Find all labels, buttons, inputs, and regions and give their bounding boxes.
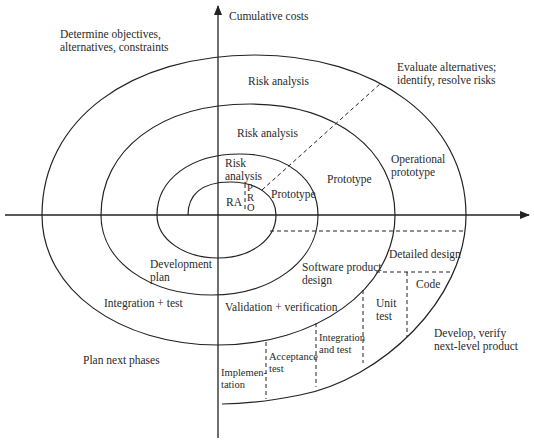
- development-plan: Development plan: [150, 258, 212, 284]
- validation-verification: Validation + verification: [225, 301, 338, 314]
- spiral: [42, 55, 466, 404]
- quadrant-develop-line1: Develop, verify: [434, 327, 518, 340]
- software-product-design-line1: Software product: [302, 261, 382, 274]
- risk-analysis-inner: Risk analysis: [225, 157, 262, 183]
- software-product-design: Software product design: [302, 261, 382, 287]
- code-label: Code: [416, 278, 440, 291]
- risk-analysis-middle: Risk analysis: [237, 127, 298, 140]
- integration-and-test-line1: Integration: [319, 332, 365, 344]
- operational-prototype: Operational prototype: [391, 153, 445, 179]
- integration-and-test-line2: and test: [319, 344, 365, 356]
- prototype-middle: Prototype: [327, 173, 372, 186]
- prototype-inner: Prototype: [271, 188, 316, 201]
- quadrant-label-objectives: Determine objectives, alternatives, cons…: [60, 28, 169, 54]
- software-product-design-line2: design: [302, 274, 382, 287]
- unit-test-line2: test: [376, 310, 396, 323]
- detailed-design: Detailed design: [389, 248, 461, 261]
- quadrant-evaluate-line1: Evaluate alternatives;: [397, 61, 496, 74]
- development-plan-line1: Development: [150, 258, 212, 271]
- operational-prototype-line1: Operational: [391, 153, 445, 166]
- pro-label: P R O: [247, 183, 255, 213]
- development-plan-line2: plan: [150, 271, 212, 284]
- unit-test-line1: Unit: [376, 297, 396, 310]
- integration-and-test: Integration and test: [319, 332, 365, 356]
- implementation: Implemen- tation: [221, 367, 267, 391]
- implementation-line2: tation: [221, 379, 267, 391]
- integration-test-plan: Integration + test: [104, 297, 183, 310]
- acceptance-test: Acceptance test: [269, 351, 318, 375]
- quadrant-objectives-line2: alternatives, constraints: [60, 41, 169, 54]
- pro-letter-o: O: [247, 203, 255, 213]
- quadrant-label-develop: Develop, verify next-level product: [434, 327, 518, 353]
- acceptance-test-line1: Acceptance: [269, 351, 318, 363]
- quadrant-label-evaluate: Evaluate alternatives; identify, resolve…: [397, 61, 496, 87]
- quadrant-label-plan-next: Plan next phases: [83, 354, 160, 367]
- quadrant-develop-line2: next-level product: [434, 340, 518, 353]
- quadrant-objectives-line1: Determine objectives,: [60, 28, 169, 41]
- risk-analysis-outer: Risk analysis: [248, 75, 309, 88]
- unit-test: Unit test: [376, 297, 396, 323]
- operational-prototype-line2: prototype: [391, 166, 445, 179]
- quadrant-evaluate-line2: identify, resolve risks: [397, 74, 496, 87]
- risk-analysis-inner-line2: analysis: [225, 170, 262, 183]
- implementation-line1: Implemen-: [221, 367, 267, 379]
- axis-label-cumulative-costs: Cumulative costs: [229, 10, 309, 23]
- ra-label: RA: [226, 196, 242, 209]
- acceptance-test-line2: test: [269, 363, 318, 375]
- spiral-arc-1-bottom: [157, 215, 276, 258]
- risk-analysis-inner-line1: Risk: [225, 157, 262, 170]
